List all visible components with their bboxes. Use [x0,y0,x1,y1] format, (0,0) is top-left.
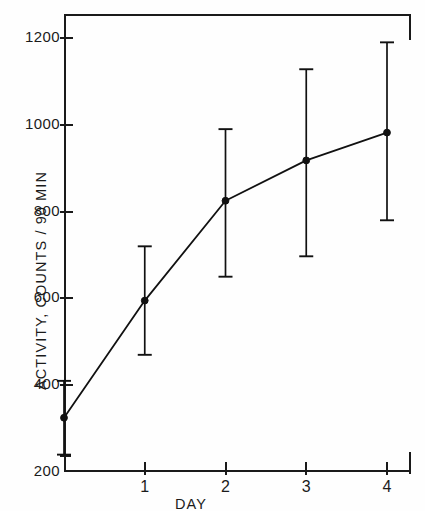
data-point-day-0 [61,414,68,421]
figure: 20040060080010001200 1234 ACTIVITY, COUN… [0,0,425,511]
data-point-day-4 [384,129,391,136]
data-point-day-3 [303,157,310,164]
data-point-day-1 [141,297,148,304]
data-point-day-2 [222,197,229,204]
data-layer [0,0,425,511]
